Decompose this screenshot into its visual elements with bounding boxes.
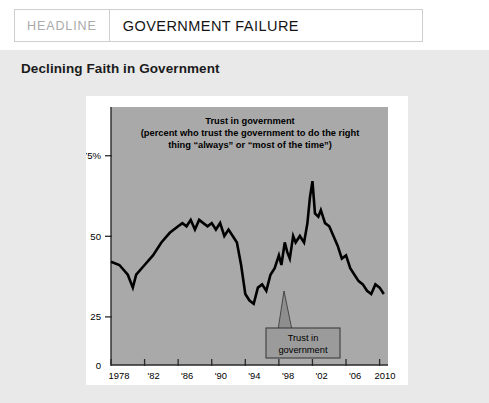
x-tick-label-1982: '82: [147, 370, 159, 381]
x-tick-label-2010: 2010: [375, 370, 396, 381]
trust-line-series: [111, 181, 384, 304]
figure-card: Trust in government (percent who trust t…: [86, 96, 408, 385]
y-tick-label-50: 50: [90, 231, 101, 242]
annotation-callout-line-2: government: [278, 345, 328, 355]
x-tick-label-1986: '86: [181, 370, 193, 381]
headline-title: GOVERNMENT FAILURE: [110, 10, 422, 41]
x-tick-label-1978: 1978: [109, 370, 130, 381]
chart-title-line-1: Trust in government: [205, 116, 294, 126]
x-tick-label-1998: '98: [282, 370, 294, 381]
headline-kicker: HEADLINE: [15, 10, 109, 41]
y-tick-label-25: 25: [90, 311, 101, 322]
x-tick-label-2002: '02: [315, 370, 327, 381]
headline-bar: HEADLINE GOVERNMENT FAILURE: [14, 9, 423, 42]
page-title: Declining Faith in Government: [21, 61, 220, 76]
chart-title-line-3: thing “always” or “most of the time”): [168, 140, 332, 150]
y-tick-label-75: 75%: [86, 150, 101, 161]
annotation-leader-line: [278, 291, 292, 330]
x-tick-label-2006: '06: [349, 370, 361, 381]
x-tick-label-1990: '90: [215, 370, 227, 381]
chart-title-line-2: (percent who trust the government to do …: [141, 128, 359, 138]
x-tick-label-1994: '94: [248, 370, 260, 381]
y-tick-label-0: 0: [96, 360, 101, 371]
annotation-callout-line-1: Trust in: [288, 333, 319, 343]
trust-in-government-chart: Trust in government (percent who trust t…: [86, 96, 408, 385]
